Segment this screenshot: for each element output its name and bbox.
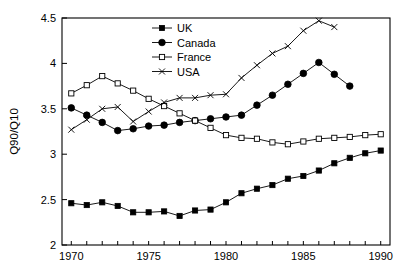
series-uk <box>69 148 384 219</box>
legend-item-usa[interactable]: USA <box>152 66 200 78</box>
legend-label: USA <box>177 66 200 78</box>
circle-marker <box>207 115 214 122</box>
square-marker <box>285 176 290 181</box>
open-square-marker <box>115 81 120 86</box>
open-square-marker <box>192 118 197 123</box>
circle-marker <box>114 127 121 134</box>
x-tick-label: 1985 <box>291 250 315 262</box>
plot-border <box>62 18 390 245</box>
y-tick-label: 2 <box>50 239 56 251</box>
cross-marker <box>285 43 291 49</box>
circle-marker <box>346 83 353 90</box>
square-marker <box>177 213 182 218</box>
circle-marker <box>223 114 230 121</box>
open-square-marker <box>131 88 136 93</box>
open-square-marker <box>378 132 383 137</box>
open-square-marker <box>146 96 151 101</box>
legend-label: Canada <box>177 37 216 49</box>
legend-item-canada[interactable]: Canada <box>152 37 216 49</box>
legend-item-uk[interactable]: UK <box>152 22 193 34</box>
chart-container: 22.533.544.5 19701975198019851990 Q90/Q1… <box>0 0 412 277</box>
series-usa <box>68 18 337 133</box>
y-tick-label: 4.5 <box>41 12 56 24</box>
square-marker <box>223 200 228 205</box>
series-france <box>69 74 384 147</box>
circle-marker <box>130 125 137 132</box>
line-chart: 22.533.544.5 19701975198019851990 Q90/Q1… <box>0 0 412 277</box>
legend-item-france[interactable]: France <box>152 51 211 63</box>
square-marker <box>84 202 89 207</box>
chart-legend: UKCanadaFranceUSA <box>152 22 216 78</box>
legend-label: UK <box>177 22 193 34</box>
circle-marker <box>176 119 183 126</box>
square-marker <box>146 210 151 215</box>
cross-marker <box>146 109 152 115</box>
open-square-marker <box>208 125 213 130</box>
cross-marker <box>269 50 275 56</box>
circle-marker <box>68 105 75 112</box>
x-tick-label: 1970 <box>59 250 83 262</box>
square-marker <box>316 168 321 173</box>
x-tick-label: 1975 <box>136 250 160 262</box>
square-marker <box>159 25 164 30</box>
circle-marker <box>300 70 307 77</box>
circle-marker <box>238 112 245 119</box>
cross-marker <box>300 28 306 34</box>
open-square-marker <box>270 140 275 145</box>
cross-marker <box>68 127 74 133</box>
square-marker <box>347 155 352 160</box>
open-square-marker <box>84 83 89 88</box>
legend-label: France <box>177 51 211 63</box>
square-marker <box>192 208 197 213</box>
open-square-marker <box>223 133 228 138</box>
open-square-marker <box>177 111 182 116</box>
square-marker <box>100 200 105 205</box>
y-tick-label: 3.5 <box>41 103 56 115</box>
circle-marker <box>316 59 323 66</box>
x-tick-label: 1990 <box>368 250 392 262</box>
open-square-marker <box>254 136 259 141</box>
square-marker <box>332 161 337 166</box>
open-square-marker <box>347 134 352 139</box>
cross-marker <box>238 75 244 81</box>
circle-marker <box>331 71 338 78</box>
cross-marker <box>331 24 337 30</box>
open-square-marker <box>100 74 105 79</box>
square-marker <box>131 210 136 215</box>
y-axis: 22.533.544.5 <box>41 12 67 251</box>
open-square-marker <box>316 136 321 141</box>
y-tick-label: 2.5 <box>41 194 56 206</box>
square-marker <box>239 191 244 196</box>
open-square-marker <box>363 133 368 138</box>
square-marker <box>208 207 213 212</box>
cross-marker <box>130 119 136 125</box>
x-tick-label: 1980 <box>214 250 238 262</box>
circle-marker <box>161 122 168 129</box>
y-tick-label: 3 <box>50 148 56 160</box>
square-marker <box>363 151 368 156</box>
square-marker <box>301 173 306 178</box>
series-canada <box>68 59 353 134</box>
square-marker <box>270 182 275 187</box>
open-square-marker <box>332 135 337 140</box>
open-square-marker <box>69 91 74 96</box>
cross-marker <box>254 62 260 68</box>
square-marker <box>162 209 167 214</box>
circle-marker <box>159 39 166 46</box>
circle-marker <box>285 81 292 88</box>
y-axis-title: Q90/Q10 <box>8 108 20 155</box>
x-axis: 19701975198019851990 <box>59 241 393 262</box>
open-square-marker <box>285 142 290 147</box>
cross-marker <box>316 18 322 24</box>
open-square-marker <box>239 135 244 140</box>
circle-marker <box>254 102 261 109</box>
square-marker <box>254 186 259 191</box>
y-tick-label: 4 <box>50 57 56 69</box>
open-square-marker <box>301 139 306 144</box>
circle-marker <box>99 119 106 126</box>
series-layer <box>68 18 383 219</box>
square-marker <box>378 148 383 153</box>
circle-marker <box>145 123 152 130</box>
square-marker <box>115 203 120 208</box>
plot-frame <box>62 18 390 245</box>
